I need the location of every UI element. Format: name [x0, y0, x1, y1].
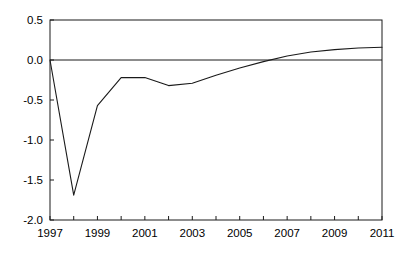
x-axis-tick-label: 2001 [132, 227, 158, 239]
x-axis-tick-label: 2011 [370, 227, 395, 239]
x-axis-tick-label: 1997 [37, 227, 63, 239]
y-axis-tick-label: -1.5 [23, 174, 43, 186]
x-axis-tick-label: 2009 [322, 227, 348, 239]
y-axis-tick-label: -0.5 [23, 94, 43, 106]
y-axis-tick-label: -2.0 [23, 214, 43, 226]
x-axis-tick-label: 2005 [227, 227, 253, 239]
x-axis-tick-label: 2003 [179, 227, 205, 239]
y-axis-tick-label: 0.0 [27, 54, 43, 66]
line-chart: 0.50.0-0.5-1.0-1.5-2.0 19971999200120032… [0, 0, 402, 263]
y-axis-tick-label: 0.5 [27, 14, 43, 26]
chart-background [0, 0, 402, 263]
chart-container: 0.50.0-0.5-1.0-1.5-2.0 19971999200120032… [0, 0, 402, 263]
x-axis-tick-label: 2007 [274, 227, 300, 239]
y-axis-tick-label: -1.0 [23, 134, 43, 146]
x-axis-tick-label: 1999 [85, 227, 111, 239]
